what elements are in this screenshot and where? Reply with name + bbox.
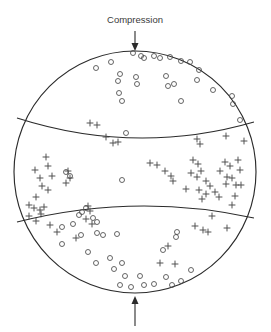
compression-marker bbox=[224, 225, 231, 232]
compression-marker bbox=[154, 162, 161, 169]
compression-marker bbox=[192, 223, 199, 230]
dilatation-marker bbox=[189, 268, 194, 273]
dilatation-marker bbox=[175, 230, 180, 235]
compression-marker bbox=[103, 134, 110, 141]
focal-mechanism-figure: Compression bbox=[0, 0, 271, 332]
compression-marker bbox=[222, 159, 229, 166]
dilatation-marker bbox=[77, 213, 82, 218]
dilatation-marker bbox=[118, 72, 123, 77]
compression-marker bbox=[172, 261, 179, 268]
dilatation-marker bbox=[134, 75, 139, 80]
compression-marker bbox=[194, 174, 201, 181]
compression-marker bbox=[33, 194, 40, 201]
compression-marker bbox=[212, 189, 219, 196]
compression-marker bbox=[209, 213, 216, 220]
compression-marker bbox=[203, 191, 210, 198]
compression-marker bbox=[216, 194, 223, 201]
compression-marker bbox=[45, 163, 52, 170]
dilatation-marker bbox=[166, 84, 171, 89]
dilatation-marker bbox=[138, 274, 143, 279]
compression-marker bbox=[83, 216, 90, 223]
dilatation-marker bbox=[135, 82, 140, 87]
compression-marker bbox=[147, 160, 154, 167]
dilatation-marker bbox=[79, 233, 84, 238]
compression-marker bbox=[229, 202, 236, 209]
compression-marker bbox=[110, 140, 117, 147]
compression-marker bbox=[26, 202, 33, 209]
compression-marker bbox=[183, 186, 190, 193]
compression-marker bbox=[199, 196, 206, 203]
dilatation-marker bbox=[120, 178, 125, 183]
dilatation-marker bbox=[179, 279, 184, 284]
compression-marker bbox=[224, 174, 231, 181]
compression-label: Compression bbox=[107, 14, 163, 25]
compression-marker bbox=[39, 183, 46, 190]
dilatation-marker bbox=[172, 82, 177, 87]
dilatation-marker bbox=[120, 261, 125, 266]
compression-marker bbox=[232, 193, 239, 200]
compression-marker bbox=[37, 207, 44, 214]
compression-marker bbox=[198, 168, 205, 175]
dilatation-marker bbox=[94, 66, 99, 71]
compression-marker bbox=[32, 167, 39, 174]
compression-marker bbox=[115, 139, 122, 146]
dilatation-marker bbox=[142, 283, 147, 288]
dilatation-marker bbox=[118, 283, 123, 288]
compression-marker bbox=[223, 181, 230, 188]
dilatation-marker bbox=[124, 131, 129, 136]
compression-arrow-bottom-icon bbox=[132, 296, 139, 326]
dilatation-marker bbox=[91, 216, 96, 221]
compression-marker bbox=[37, 175, 44, 182]
dilatation-marker bbox=[230, 94, 235, 99]
dilatation-marker bbox=[60, 225, 65, 230]
compression-marker bbox=[41, 204, 48, 211]
compression-marker bbox=[162, 168, 169, 175]
dilatation-marker bbox=[238, 118, 243, 123]
compression-marker bbox=[31, 205, 38, 212]
compression-marker bbox=[194, 136, 201, 143]
compression-marker-group bbox=[26, 120, 248, 268]
dilatation-marker bbox=[109, 60, 114, 65]
compression-marker bbox=[87, 120, 94, 127]
compression-marker bbox=[237, 167, 244, 174]
dilatation-marker bbox=[152, 54, 157, 59]
dilatation-marker bbox=[158, 56, 163, 61]
dilatation-marker bbox=[195, 78, 200, 83]
dilatation-marker bbox=[164, 275, 169, 280]
dilatation-marker bbox=[120, 99, 125, 104]
compression-marker bbox=[235, 157, 242, 164]
compression-marker bbox=[157, 260, 164, 267]
compression-marker bbox=[47, 222, 54, 229]
compression-marker bbox=[238, 182, 245, 189]
dilatation-marker-group bbox=[60, 51, 243, 290]
annotation-layer: Compression bbox=[107, 14, 163, 326]
compression-marker bbox=[197, 141, 204, 148]
lower-nodal-plane bbox=[17, 206, 254, 222]
compression-marker bbox=[94, 122, 101, 129]
dilatation-marker bbox=[179, 99, 184, 104]
compression-marker bbox=[190, 157, 197, 164]
dilatation-marker bbox=[161, 248, 166, 253]
compression-arrow-top-icon bbox=[132, 31, 139, 51]
compression-marker bbox=[45, 187, 52, 194]
dilatation-marker bbox=[129, 285, 134, 290]
compression-marker bbox=[165, 243, 172, 250]
compression-marker bbox=[229, 175, 236, 182]
compression-marker bbox=[207, 183, 214, 190]
compression-marker bbox=[241, 138, 248, 145]
compression-marker bbox=[223, 133, 230, 140]
dilatation-marker bbox=[164, 74, 169, 79]
upper-nodal-plane bbox=[17, 118, 254, 138]
dilatation-marker bbox=[94, 261, 99, 266]
compression-marker bbox=[196, 187, 203, 194]
compression-marker bbox=[195, 161, 202, 168]
compression-marker bbox=[203, 178, 210, 185]
dilatation-marker bbox=[123, 274, 128, 279]
dilatation-marker bbox=[115, 232, 120, 237]
compression-marker bbox=[49, 173, 56, 180]
dilatation-marker bbox=[211, 88, 216, 93]
dilatation-marker bbox=[108, 256, 113, 261]
dilatation-marker bbox=[95, 231, 100, 236]
dilatation-marker bbox=[117, 91, 122, 96]
compression-marker bbox=[54, 229, 61, 236]
